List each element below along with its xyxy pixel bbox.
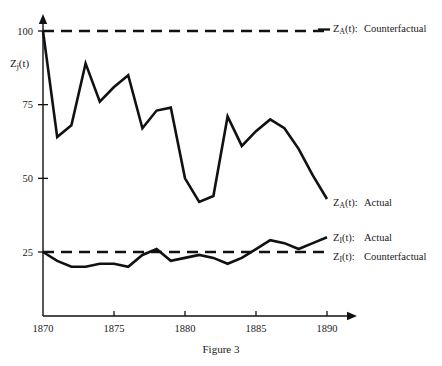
- figure-container: 255075100 18701875188018851890 Zj(t) ZA(…: [0, 0, 442, 366]
- legend-tail: (t):: [345, 197, 358, 208]
- legend-item-zi-actual: ZI(t):Actual: [333, 233, 392, 244]
- legend-item-za-actual: ZA(t):Actual: [333, 198, 392, 209]
- series-za-actual: [43, 31, 327, 202]
- y-tick-label-100: 100: [17, 26, 33, 37]
- y-axis-title-tail: (t): [19, 57, 29, 69]
- legend-label: Actual: [364, 197, 392, 208]
- y-tick-label-75: 75: [23, 99, 34, 110]
- x-tick-label-1880: 1880: [175, 323, 196, 334]
- legend-label: Counterfactual: [364, 23, 426, 34]
- legend-subscript: I: [339, 255, 342, 264]
- legend-label: Actual: [364, 232, 392, 243]
- x-tick-label-1870: 1870: [33, 323, 54, 334]
- y-axis-arrowhead: [39, 14, 47, 24]
- legend-subscript: I: [339, 236, 342, 245]
- y-axis-title: Zj(t): [10, 57, 29, 69]
- legend-tail: (t):: [345, 23, 358, 34]
- legend-zi-actual-series: ZI(t):: [333, 233, 364, 244]
- figure-caption: Figure 3: [0, 344, 442, 356]
- x-axis-arrowhead: [347, 312, 357, 320]
- x-tick-group: 18701875188018851890: [33, 311, 338, 334]
- series-group: [43, 31, 330, 267]
- y-axis-title-subscript: j: [17, 62, 19, 71]
- legend-item-za-counterfactual: ZA(t):Counterfactual: [333, 24, 426, 35]
- legend-subscript: A: [339, 201, 344, 210]
- x-tick-label-1890: 1890: [317, 323, 338, 334]
- x-tick-label-1875: 1875: [104, 323, 125, 334]
- legend-item-zi-counterfactual: ZI(t):Counterfactual: [333, 252, 426, 263]
- legend-tail: (t):: [342, 251, 355, 262]
- y-axis-title-symbol: Z: [10, 57, 17, 69]
- y-tick-label-50: 50: [23, 173, 34, 184]
- legend-tail: (t):: [342, 232, 355, 243]
- x-tick-label-1885: 1885: [246, 323, 267, 334]
- legend-za-actual-series: ZA(t):: [333, 198, 364, 209]
- legend-subscript: A: [339, 27, 344, 36]
- y-tick-label-25: 25: [23, 247, 34, 258]
- legend-label: Counterfactual: [364, 251, 426, 262]
- legend-zi-counterfactual-series: ZI(t):: [333, 252, 364, 263]
- legend-za-counterfactual-series: ZA(t):: [333, 24, 364, 35]
- chart-canvas: 255075100 18701875188018851890: [0, 0, 442, 366]
- figure-caption-line: Figure 3: [0, 344, 442, 356]
